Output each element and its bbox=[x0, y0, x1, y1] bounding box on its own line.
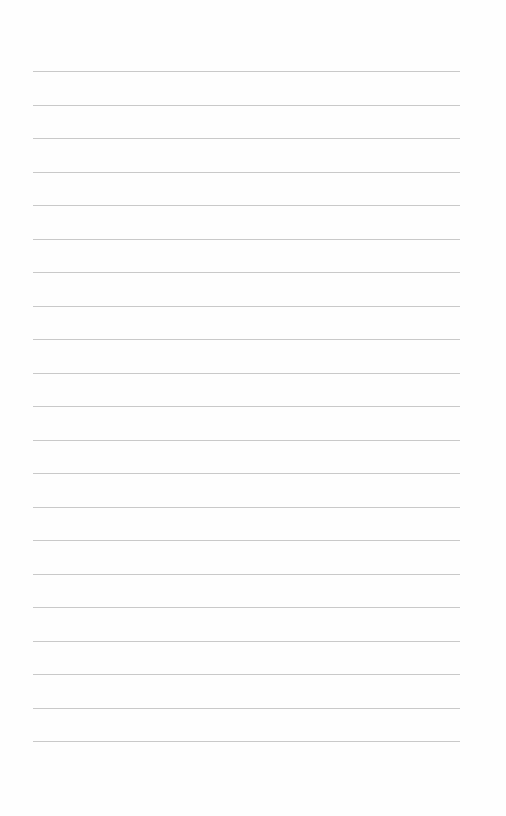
ruled-line bbox=[33, 607, 460, 608]
ruled-line bbox=[33, 674, 460, 675]
ruled-line bbox=[33, 641, 460, 642]
ruled-line bbox=[33, 339, 460, 340]
ruled-line bbox=[33, 138, 460, 139]
ruled-line bbox=[33, 306, 460, 307]
ruled-line bbox=[33, 239, 460, 240]
ruled-line bbox=[33, 373, 460, 374]
ruled-line bbox=[33, 540, 460, 541]
ruled-line bbox=[33, 272, 460, 273]
ruled-line bbox=[33, 71, 460, 72]
ruled-line bbox=[33, 406, 460, 407]
ruled-line bbox=[33, 473, 460, 474]
ruled-line bbox=[33, 105, 460, 106]
ruled-line bbox=[33, 741, 460, 742]
ruled-line bbox=[33, 708, 460, 709]
ruled-line bbox=[33, 507, 460, 508]
ruled-line bbox=[33, 172, 460, 173]
ruled-line bbox=[33, 440, 460, 441]
ruled-line bbox=[33, 574, 460, 575]
lined-paper-page bbox=[0, 0, 506, 816]
ruled-line bbox=[33, 205, 460, 206]
